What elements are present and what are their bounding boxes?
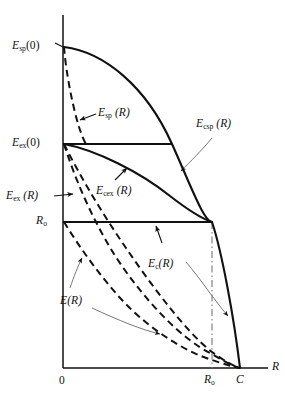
leader-ecex [115, 168, 127, 180]
curve-er-upper-dashed [64, 144, 240, 368]
plot-svg [0, 0, 285, 405]
curve-ecsp [64, 47, 240, 368]
x-tick-label-origin: 0 [59, 375, 65, 387]
leader-er-right [92, 308, 160, 334]
curve-label-eex: Eex (R) [6, 190, 38, 202]
x-axis-title: R [272, 361, 279, 373]
leader-esp [80, 114, 96, 120]
figure-canvas: Esp(0) Eex(0) Ro Esp (R) Ecsp (R) Ecex (… [0, 0, 285, 405]
y-tick-label-ro: Ro [36, 215, 47, 227]
curve-label-er: E(R) [60, 295, 82, 307]
leader-ec-up [156, 226, 162, 243]
curve-label-ec: Ec(R) [148, 258, 173, 270]
leader-ec-down [186, 262, 228, 316]
leader-ecsp [181, 138, 212, 171]
curve-label-esp: Esp (R) [98, 107, 130, 119]
y-tick-label-eex0: Eex(0) [12, 137, 40, 149]
curve-er-lower-dashed [64, 222, 240, 368]
x-tick-label-ro: Ro [204, 374, 215, 386]
curve-eex-dashed [64, 144, 240, 368]
x-tick-label-c: C [236, 374, 244, 386]
leader-esp0 [55, 43, 63, 47]
curve-label-ecsp: Ecsp (R) [196, 118, 231, 130]
curve-esp-dashed [64, 47, 86, 144]
leader-er-up [70, 258, 82, 288]
y-tick-label-esp0: Esp(0) [12, 40, 40, 52]
curve-label-ecex: Ecex (R) [96, 185, 132, 197]
